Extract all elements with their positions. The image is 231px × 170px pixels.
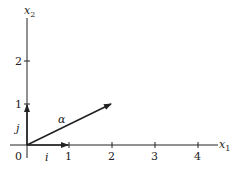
x-tick-label: 2 [108, 150, 115, 163]
x-tick-label: 3 [151, 150, 158, 163]
y-axis-label: x2 [24, 4, 35, 19]
x-tick-label: 4 [194, 150, 201, 163]
y-tick-label: 2 [15, 55, 22, 68]
x-axis-label: x1 [219, 138, 230, 153]
vector-diagram: 1 2 3 4 1 2 0 i j α x1 x2 [0, 0, 231, 170]
y-tick-label: 1 [15, 98, 22, 111]
x-tick-label: 1 [65, 150, 72, 163]
vector-alpha-label: α [58, 113, 66, 126]
vector-j-label: j [13, 122, 20, 135]
vector-alpha [27, 104, 111, 145]
origin-label: 0 [15, 150, 22, 163]
vector-i-label: i [45, 151, 49, 164]
